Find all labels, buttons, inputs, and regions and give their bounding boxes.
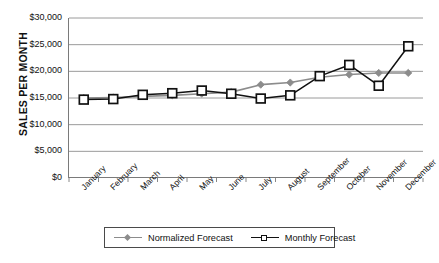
chart-container: SALES PER MONTH $30,000$25,000$20,000$15… — [0, 0, 439, 263]
y-axis-tick-label: $25,000 — [2, 40, 62, 49]
y-axis-tick-label: $15,000 — [2, 93, 62, 102]
legend-item-monthly-forecast: Monthly Forecast — [233, 228, 355, 247]
data-point-marker — [375, 69, 382, 76]
data-point-marker — [257, 81, 264, 88]
legend-label-monthly-forecast: Monthly Forecast — [285, 233, 355, 243]
data-point-marker — [345, 61, 354, 70]
data-point-marker — [227, 89, 236, 98]
y-axis-tick-label: $5,000 — [2, 146, 62, 155]
series-line-monthly-forecast — [84, 46, 409, 99]
data-point-marker — [168, 89, 177, 98]
data-point-marker — [287, 79, 294, 86]
y-axis-tick-label: $10,000 — [2, 120, 62, 129]
plot-svg — [69, 18, 423, 178]
data-point-marker — [374, 81, 383, 90]
legend-label-normalized-forecast: Normalized Forecast — [148, 233, 233, 243]
y-axis-tick-labels: $30,000$25,000$20,000$15,000$10,000$5,00… — [2, 0, 62, 263]
data-point-marker — [286, 91, 295, 100]
series-line-normalized-forecast — [84, 73, 409, 98]
data-point-marker — [109, 95, 118, 104]
x-axis-tick-labels: JanuaryFebruaryMarchAprilMayJuneJulyAugu… — [68, 178, 422, 224]
data-point-marker — [138, 90, 147, 99]
data-point-marker — [315, 72, 324, 81]
y-axis-tick-label: $0 — [2, 173, 62, 182]
diamond-gray-icon — [114, 232, 142, 244]
chart-legend: Normalized Forecast Monthly Forecast — [104, 227, 335, 248]
plot-area — [68, 18, 422, 178]
legend-item-normalized-forecast: Normalized Forecast — [105, 228, 233, 247]
square-white-icon — [251, 232, 279, 244]
data-point-marker — [404, 42, 413, 51]
data-point-marker — [197, 86, 206, 95]
data-point-marker — [79, 95, 88, 104]
data-point-marker — [405, 69, 412, 76]
y-axis-tick-label: $30,000 — [2, 13, 62, 22]
data-point-marker — [256, 94, 265, 103]
data-point-marker — [346, 71, 353, 78]
y-axis-tick-label: $20,000 — [2, 66, 62, 75]
